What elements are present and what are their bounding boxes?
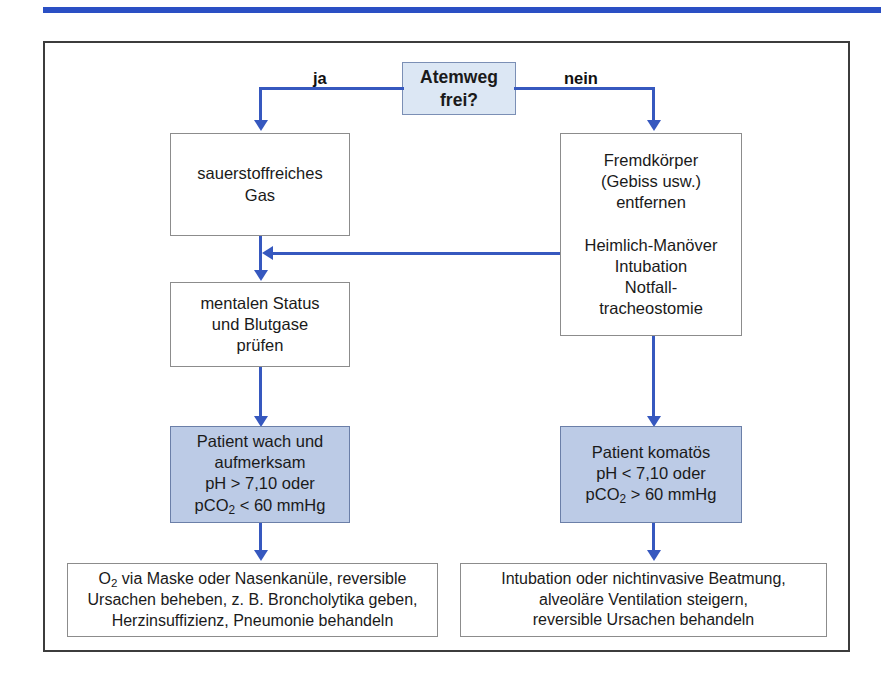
arrow-into-right-box-3 — [647, 550, 661, 561]
node-treatment-intubation-ventilation[interactable]: Intubation oder nichtinvasive Beatmung, … — [460, 563, 827, 637]
connector-decision-to-left-horizontal — [259, 87, 404, 90]
right1-line-3: entfernen — [616, 193, 686, 211]
arrow-feedback-into-left-column — [262, 246, 273, 260]
left1-line-2: Gas — [245, 186, 275, 204]
left1-line-1: sauerstoffreiches — [197, 164, 322, 182]
decision-line-2: frei? — [440, 90, 478, 110]
right1-spacer — [649, 214, 654, 232]
node-decision-airway-clear[interactable]: Atemweg frei? — [402, 62, 516, 115]
right2-line-1: Patient komatös — [592, 443, 710, 461]
left2-line-1: mentalen Status — [200, 294, 319, 312]
left4-line-2: Ursachen beheben, z. B. Broncholytika ge… — [88, 591, 418, 608]
right1-line-6: Intubation — [615, 257, 687, 275]
right1-line-1: Fremdkörper — [604, 151, 698, 169]
connector-decision-to-right-vertical — [652, 87, 655, 121]
connector-left3-to-left4 — [259, 523, 262, 551]
node-oxygen-rich-gas[interactable]: sauerstoffreiches Gas — [170, 133, 350, 236]
right1-line-2: (Gebiss usw.) — [601, 172, 701, 190]
left3-line-3: pH > 7,10 oder — [205, 474, 315, 492]
left2-line-2: und Blutgase — [212, 315, 308, 333]
connector-right1-to-right2 — [652, 336, 655, 418]
connector-decision-to-right-horizontal — [514, 87, 655, 90]
arrow-into-left-box-4 — [254, 550, 268, 561]
arrow-into-right-box-1 — [647, 120, 661, 131]
connector-right2-to-right3 — [652, 523, 655, 551]
right1-line-5: Heimlich-Manöver — [585, 236, 718, 254]
left3-line-4: pCO2 < 60 mmHg — [195, 496, 326, 514]
node-treatment-oxygen-reversible-causes[interactable]: O2 via Maske oder Nasenkanüle, reversibl… — [67, 563, 438, 637]
node-check-mental-status-blood-gas[interactable]: mentalen Status und Blutgase prüfen — [170, 282, 350, 367]
right1-line-7: Notfall- — [625, 278, 677, 296]
flowchart-page: Atemweg frei? ja nein sauerstoffreiches … — [0, 0, 889, 682]
connector-decision-to-left-vertical — [259, 87, 262, 121]
right3-line-2: alveoläre Ventilation steigern, — [539, 591, 748, 608]
decision-line-1: Atemweg — [420, 67, 498, 87]
right3-line-1: Intubation oder nichtinvasive Beatmung, — [501, 570, 786, 587]
right2-line-2: pH < 7,10 oder — [596, 464, 706, 482]
left3-line-1: Patient wach und — [197, 432, 324, 450]
connector-right1-to-left-feedback — [270, 252, 560, 255]
node-patient-comatose[interactable]: Patient komatös pH < 7,10 oder pCO2 > 60… — [560, 426, 742, 523]
top-blue-rule — [43, 7, 881, 13]
right1-line-8: tracheostomie — [599, 299, 703, 317]
left4-line-3: Herzinsuffizienz, Pneumonie behandeln — [112, 612, 394, 629]
right3-line-3: reversible Ursachen behandeln — [533, 611, 754, 628]
connector-left2-to-left3 — [259, 367, 262, 419]
branch-label-no: nein — [564, 69, 598, 88]
node-remove-foreign-body[interactable]: Fremdkörper (Gebiss usw.) entfernen Heim… — [560, 133, 742, 336]
left3-line-2: aufmerksam — [215, 453, 306, 471]
branch-label-yes: ja — [313, 69, 327, 88]
right2-line-3: pCO2 > 60 mmHg — [586, 485, 717, 503]
arrow-into-left-box-2 — [254, 270, 268, 281]
arrow-into-left-box-1 — [254, 120, 268, 131]
node-patient-awake-alert[interactable]: Patient wach und aufmerksam pH > 7,10 od… — [170, 426, 350, 523]
left2-line-3: prüfen — [237, 336, 284, 354]
left4-line-1: O2 via Maske oder Nasenkanüle, reversibl… — [99, 570, 407, 587]
